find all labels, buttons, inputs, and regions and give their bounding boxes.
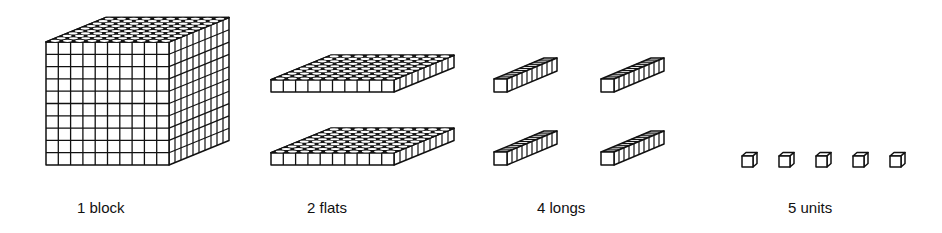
base-ten-blocks-figure: 1 block 2 flats 4 longs 5 units (0, 0, 942, 233)
label-flats: 2 flats (307, 199, 347, 216)
label-units: 5 units (788, 199, 832, 216)
flats-icon (271, 55, 454, 165)
longs-icon (494, 58, 664, 165)
block-cube-icon (46, 18, 229, 166)
label-longs: 4 longs (537, 199, 585, 216)
label-block: 1 block (77, 199, 125, 216)
units-icon (742, 153, 905, 168)
